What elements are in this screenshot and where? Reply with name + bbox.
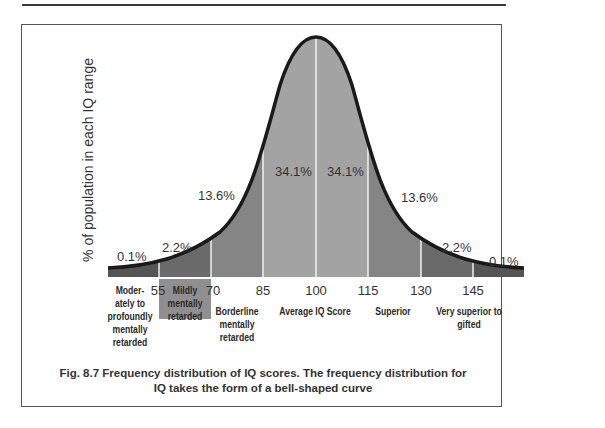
region-70-85 [211,30,263,280]
pct-label-85-100: 34.1% [275,164,312,179]
category-gifted: Very superior to gifted [436,305,502,331]
pct-label-70-85: 13.6% [198,188,235,203]
tick-70: 70 [206,283,220,298]
pct-label-below-55: 0.1% [117,249,147,264]
category-moderate: Moder- ately to profoundly mentally reta… [108,284,153,349]
tick-130: 130 [410,283,432,298]
pct-label-130-145: 2.2% [442,240,472,255]
category-average: Average IQ Score [279,305,350,318]
category-superior: Superior [375,305,410,318]
category-borderline: Borderline mentally retarded [215,305,258,344]
region-115-130 [368,30,421,280]
caption-line-1: Fig. 8.7 Frequency distribution of IQ sc… [40,366,486,381]
tick-85: 85 [256,283,270,298]
pct-label-above-145: 0.1% [489,254,519,269]
region-above-145 [473,30,533,280]
pct-label-115-130: 13.6% [401,190,438,205]
tick-100: 100 [305,283,327,298]
tick-115: 115 [358,283,379,298]
tick-55: 55 [151,283,165,298]
figure-caption: Fig. 8.7 Frequency distribution of IQ sc… [40,366,486,396]
category-mild: Mildly mentally retarded [168,284,203,323]
pct-label-55-70: 2.2% [162,240,192,255]
region-below-55 [100,30,159,280]
y-axis-label: % of population in each IQ range [80,58,96,262]
caption-line-2: IQ takes the form of a bell-shaped curve [40,381,486,396]
pct-label-100-115: 34.1% [327,164,364,179]
tick-145: 145 [462,283,484,298]
